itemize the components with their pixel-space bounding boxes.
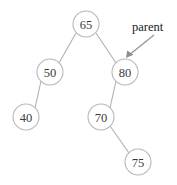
tree-node-50[interactable]: 50 (37, 59, 63, 85)
node-label-40: 40 (20, 111, 33, 125)
node-label-75: 75 (132, 156, 145, 170)
tree-node-80[interactable]: 80 (112, 59, 138, 85)
parent-annotation-label: parent (132, 20, 164, 34)
edge-65-80 (96, 33, 116, 63)
edge-65-50 (59, 33, 76, 63)
nodes-group: 65 50 80 40 70 75 (13, 11, 151, 175)
tree-node-65[interactable]: 65 (73, 11, 99, 37)
parent-annotation-group: parent (126, 20, 164, 58)
edge-50-40 (35, 81, 41, 108)
edge-70-75 (110, 126, 129, 153)
tree-diagram-canvas: 65 50 80 40 70 75 (0, 0, 177, 185)
node-label-80: 80 (119, 66, 132, 80)
node-label-65: 65 (80, 18, 93, 32)
tree-diagram-svg: 65 50 80 40 70 75 (0, 0, 177, 185)
node-label-70: 70 (95, 111, 108, 125)
parent-arrow-head-icon (126, 51, 133, 58)
edges-group (35, 33, 129, 153)
node-label-50: 50 (44, 66, 57, 80)
tree-node-75[interactable]: 75 (125, 149, 151, 175)
edge-80-70 (110, 81, 116, 108)
parent-arrow-shaft (129, 35, 155, 56)
tree-node-40[interactable]: 40 (13, 104, 39, 130)
tree-node-70[interactable]: 70 (88, 104, 114, 130)
